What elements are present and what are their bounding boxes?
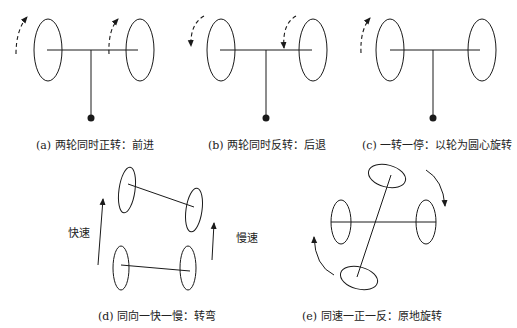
caster-wheel xyxy=(430,115,437,122)
rotation-arrow-forward xyxy=(109,19,118,54)
caption-a: (a) 两轮同时正转：前进 xyxy=(36,136,154,152)
panel-e-spin xyxy=(314,160,445,293)
rotation-arrow-backward xyxy=(191,16,204,46)
rotation-arrow-backward xyxy=(284,16,296,48)
axle-top xyxy=(128,184,194,207)
caster-wheel xyxy=(88,115,95,122)
rotation-arrow-clockwise xyxy=(314,237,334,275)
rotation-arrow-forward xyxy=(361,18,370,53)
panel-c-pivot xyxy=(361,18,496,122)
diagram-canvas xyxy=(0,0,517,328)
caster-wheel xyxy=(263,115,270,122)
caption-e: (e) 同速一正一反：原地旋转 xyxy=(302,307,442,323)
label-slow: 慢速 xyxy=(236,229,258,245)
label-fast: 快速 xyxy=(68,224,90,240)
rotation-arrow-forward xyxy=(16,17,27,54)
panel-a-forward xyxy=(16,17,154,122)
wheel-top-left xyxy=(116,166,138,214)
caption-c: (c) 一转一停：以轮为圆心旋转 xyxy=(362,136,512,152)
panel-d-turning xyxy=(98,166,214,290)
caption-b: (b) 两轮同时反转：后退 xyxy=(208,136,326,152)
axle-diagonal xyxy=(357,175,391,277)
caption-d: (d) 同向一快一慢：转弯 xyxy=(98,307,216,323)
panel-b-backward xyxy=(191,16,327,122)
wheel-bottom-right xyxy=(180,246,196,290)
wheel-top-right xyxy=(183,187,205,233)
wheel-bottom xyxy=(338,262,380,293)
wheel-bottom-left xyxy=(113,246,129,290)
slow-arrow xyxy=(212,223,214,260)
fast-arrow xyxy=(98,199,103,265)
